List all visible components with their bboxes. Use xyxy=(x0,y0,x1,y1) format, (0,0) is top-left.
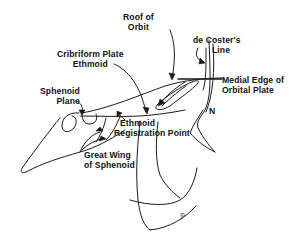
label-great-wing: Great Wing of Sphenoid xyxy=(84,150,135,170)
label-medial-edge: Medial Edge of Orbital Plate xyxy=(222,75,284,95)
label-greatwing-line1: Great Wing xyxy=(84,150,135,160)
label-de-costers-line: de Coster's Line xyxy=(193,35,241,55)
label-nasion-text: N xyxy=(209,106,215,116)
label-decoster-line2: Line xyxy=(193,45,241,55)
roof-leader xyxy=(170,30,174,78)
palate-curve xyxy=(130,168,197,205)
nasal-wedge xyxy=(190,110,215,152)
label-cribriform-line1: Cribriform Plate xyxy=(57,49,124,59)
label-decoster-line1: de Coster's xyxy=(193,35,241,45)
label-greatwing-line2: of Sphenoid xyxy=(84,160,135,170)
label-ethmoid-line1: Ethmoid xyxy=(114,118,190,128)
label-medial-line1: Medial Edge of xyxy=(222,75,284,85)
label-roof-line2: Orbit xyxy=(123,22,154,32)
label-sphenoid-line2: Plane xyxy=(40,96,80,106)
cribriform-leader xyxy=(114,64,146,112)
label-ethmoid-registration: Ethmoid Registration Point xyxy=(114,118,190,138)
anatomical-diagram: Roof of Orbit de Coster's Line Cribrifor… xyxy=(0,0,306,242)
label-cribriform-plate: Cribriform Plate Ethmoid xyxy=(57,49,124,69)
label-nasion: N xyxy=(209,106,215,116)
label-cribriform-line2: Ethmoid xyxy=(57,59,124,69)
label-roof-of-orbit: Roof of Orbit xyxy=(123,12,154,32)
orbital-roof-contour xyxy=(82,78,222,113)
label-roof-line1: Roof of xyxy=(123,12,154,22)
label-sphenoid-line1: Sphenoid xyxy=(40,86,80,96)
planum-line xyxy=(80,110,185,116)
clinoid-contour xyxy=(82,113,97,124)
lower-arc xyxy=(150,206,196,230)
label-sphenoid-plane: Sphenoid Plane xyxy=(40,86,80,106)
sella-contour xyxy=(62,113,79,132)
label-medial-line2: Orbital Plate xyxy=(222,85,284,95)
label-ethmoid-line2: Registration Point xyxy=(114,128,190,138)
